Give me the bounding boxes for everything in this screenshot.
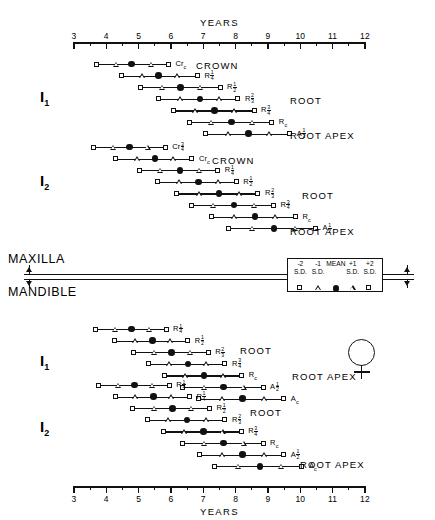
sd-minus-2-square [174, 191, 179, 196]
data-row: R14 [0, 381, 435, 390]
sd-minus-1-triangle [115, 383, 121, 388]
stage-heading: ROOT APEX [290, 226, 355, 237]
sd-plus-1-triangle [266, 131, 272, 136]
tooth-label-I2: I2 [40, 172, 49, 192]
sd-plus-2-square [271, 203, 276, 208]
x-axis-tick [106, 486, 107, 493]
sd-minus-2-square [156, 96, 161, 101]
mean-dot [197, 96, 204, 103]
stage-label: R14 [196, 392, 206, 403]
sd-plus-2-square [206, 350, 211, 355]
stage-label: R34 [280, 200, 290, 211]
data-row: R23 [0, 95, 435, 104]
stage-heading: ROOT [250, 407, 282, 418]
sd-minus-2-square [91, 145, 96, 150]
sd-plus-1-triangle [187, 350, 193, 355]
mean-dot [131, 382, 138, 389]
data-row: R14 [0, 393, 435, 402]
sd-plus-2-square [163, 145, 168, 150]
x-axis-minor-tick [187, 486, 188, 490]
stage-label: A12 [291, 450, 300, 461]
x-axis-tick-label: 7 [201, 494, 206, 504]
sd-plus-1-triangle [168, 394, 174, 399]
sd-minus-1-triangle [132, 338, 138, 343]
mean-dot [177, 167, 184, 174]
female-symbol-cross [354, 371, 370, 373]
sd-plus-2-square [185, 338, 190, 343]
mean-dot [149, 337, 156, 344]
x-axis-minor-tick [219, 42, 220, 46]
stage-label: R12 [195, 336, 205, 347]
sd-minus-1-triangle [210, 203, 216, 208]
sd-minus-2-square [209, 214, 214, 219]
sd-plus-2-square [189, 156, 194, 161]
stage-heading: ROOT [290, 95, 322, 106]
x-axis-tick [138, 486, 139, 493]
x-axis-tick [300, 486, 301, 493]
x-axis-minor-tick [90, 42, 91, 46]
legend-mean-dot-symbol [333, 285, 340, 292]
x-axis-tick [203, 486, 204, 493]
x-axis-minor-tick [122, 42, 123, 46]
sd-plus-2-square [195, 73, 200, 78]
x-axis-tick-label: 8 [233, 494, 238, 504]
x-axis-tick [364, 42, 365, 49]
sd-plus-1-triangle [236, 191, 242, 196]
data-row: R14 [0, 72, 435, 81]
sd-minus-2-square [155, 179, 160, 184]
dental-development-chart: 3456789101112YEARS3456789101112YEARSCrcR… [0, 0, 435, 520]
x-axis-minor-tick [251, 42, 252, 46]
legend-square-symbol [297, 285, 302, 290]
x-axis-minor-tick [284, 42, 285, 46]
sd-minus-2-square [187, 120, 192, 125]
sd-plus-1-triangle [216, 96, 222, 101]
sd-minus-1-triangle [182, 373, 188, 378]
sd-plus-1-triangle [174, 73, 180, 78]
mean-dot [169, 405, 176, 412]
x-axis-tick-label: 6 [169, 494, 174, 504]
mean-dot [239, 451, 246, 458]
sd-plus-2-square [269, 120, 274, 125]
mean-dot [168, 349, 175, 356]
stage-label: R14 [204, 71, 214, 82]
sd-plus-1-triangle [251, 203, 257, 208]
female-symbol-circle [348, 339, 375, 366]
x-axis-tick [332, 42, 333, 49]
data-row: R34 [0, 106, 435, 115]
legend-label: -1S.D. [312, 260, 325, 275]
stage-label: R14 [176, 380, 186, 391]
legend-label: -2S.D. [294, 260, 307, 275]
x-axis-tick-label: 12 [360, 31, 370, 41]
x-axis-tick [73, 486, 74, 493]
sd-plus-1-triangle [148, 62, 154, 67]
stage-label: Crc [175, 59, 186, 70]
sd-plus-1-triangle [220, 429, 226, 434]
data-row: R12 [0, 404, 435, 413]
sd-minus-2-square [137, 168, 142, 173]
sd-minus-2-square [113, 394, 118, 399]
sd-plus-1-triangle [149, 383, 155, 388]
data-row: R23 [0, 416, 435, 425]
data-row: Cr34 [0, 143, 435, 152]
stage-label: R34 [232, 359, 242, 370]
sd-plus-1-triangle [272, 214, 278, 219]
stage-heading: CROWN [212, 155, 254, 166]
sd-minus-2-square [226, 226, 231, 231]
maxilla-arrow-stem-right [407, 265, 409, 274]
sd-plus-1-triangle [220, 373, 226, 378]
data-row: R34 [0, 201, 435, 210]
sd-plus-2-square [218, 85, 223, 90]
sd-minus-1-triangle [110, 145, 116, 150]
stage-label: Cr34 [172, 142, 184, 153]
stage-heading: CROWN [196, 60, 238, 71]
mean-dot [195, 179, 202, 186]
stage-label: Rc [249, 370, 257, 381]
mean-dot [185, 361, 192, 368]
sd-minus-1-triangle [196, 191, 202, 196]
x-axis-tick [106, 42, 107, 49]
sd-minus-2-square [94, 62, 99, 67]
stage-label: Rc [302, 212, 310, 223]
mean-dot [152, 155, 159, 162]
x-axis-tick-label: 11 [328, 494, 337, 504]
mean-dot [245, 130, 252, 137]
